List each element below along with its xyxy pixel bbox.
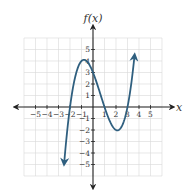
y-tick-label: 1 bbox=[85, 91, 90, 100]
x-tick-label: 2 bbox=[114, 110, 119, 119]
y-tick-label: −2 bbox=[79, 126, 90, 135]
y-tick-label: 2 bbox=[85, 80, 90, 89]
x-axis-label: x bbox=[176, 101, 183, 114]
x-tick-label: −5 bbox=[30, 110, 41, 119]
y-tick-label: −4 bbox=[79, 149, 90, 158]
x-tick-label: −4 bbox=[41, 110, 52, 119]
x-tick-label: −3 bbox=[53, 110, 64, 119]
x-tick-label: 5 bbox=[148, 110, 153, 119]
y-tick-label: 5 bbox=[85, 45, 90, 54]
y-tick-label: 3 bbox=[85, 68, 90, 77]
y-axis-label: f(x) bbox=[83, 12, 103, 25]
x-tick-label: 4 bbox=[137, 110, 142, 119]
y-tick-label: −3 bbox=[79, 137, 90, 146]
function-graph: −5−4−3−2−11234554321−1−2−3−4−5 x f(x) bbox=[0, 0, 190, 192]
axes bbox=[16, 27, 172, 187]
y-tick-label: −5 bbox=[79, 160, 90, 169]
y-tick-label: −1 bbox=[79, 114, 90, 123]
